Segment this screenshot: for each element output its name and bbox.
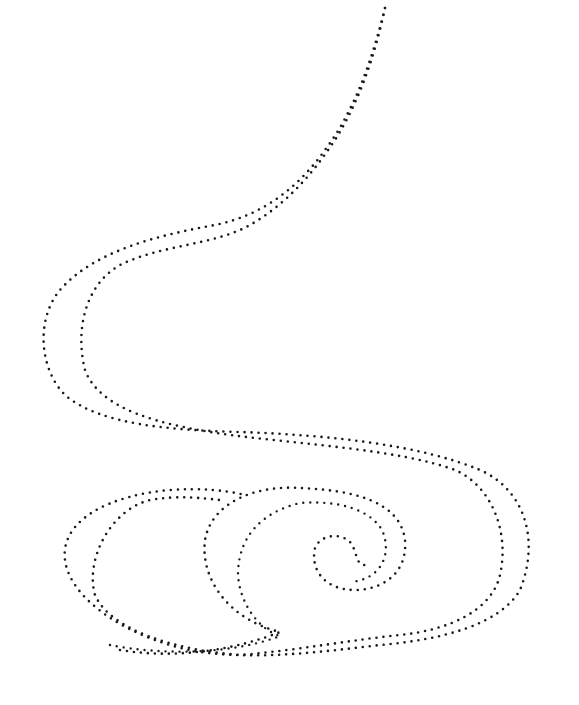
dotted-swirl-artwork — [0, 0, 579, 705]
background — [0, 0, 579, 705]
